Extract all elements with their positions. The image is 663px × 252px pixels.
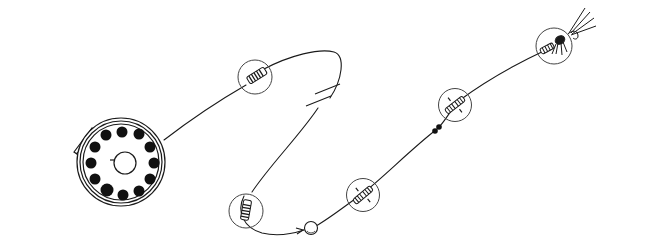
break-mark-icon xyxy=(306,84,340,106)
blood-knot-icon xyxy=(347,179,380,212)
nail-knot-icon xyxy=(238,60,272,94)
blood-knot-icon xyxy=(439,89,472,122)
fly-line-lower xyxy=(252,108,318,192)
fly-reel-icon xyxy=(74,118,165,206)
fly-icon xyxy=(536,8,596,64)
bead-icon xyxy=(305,222,318,235)
leader-line xyxy=(316,49,548,226)
fly-line-upper xyxy=(262,51,341,98)
fly-fishing-rig-diagram xyxy=(0,0,663,252)
diagram-svg xyxy=(0,0,663,252)
backing-line xyxy=(164,85,246,140)
